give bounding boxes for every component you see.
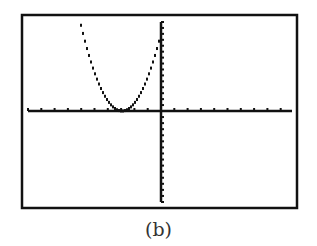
curve-pixel bbox=[110, 103, 112, 106]
curve-pixel bbox=[136, 98, 138, 101]
curve-pixel bbox=[130, 105, 132, 108]
curve-pixel bbox=[112, 105, 114, 108]
curve-pixel bbox=[90, 60, 92, 63]
curve-pixel bbox=[128, 107, 130, 110]
curve-pixel bbox=[86, 47, 88, 50]
curve-pixel bbox=[138, 95, 140, 98]
curve-pixel bbox=[80, 24, 82, 27]
curve-pixel bbox=[148, 72, 150, 75]
curve-pixel bbox=[156, 47, 158, 50]
curve-pixel bbox=[92, 67, 94, 70]
figure-caption: (b) bbox=[0, 218, 317, 240]
curve-pixel bbox=[106, 98, 108, 101]
curve-pixel bbox=[160, 32, 162, 35]
curve-pixel bbox=[96, 78, 98, 81]
curve-pixel bbox=[104, 95, 106, 98]
curve-pixel bbox=[82, 32, 84, 35]
curve-pixel bbox=[152, 60, 154, 63]
curve-pixel bbox=[94, 72, 96, 75]
curve-pixel bbox=[124, 109, 126, 112]
curve-pixel bbox=[88, 54, 90, 57]
curve-pixel bbox=[114, 107, 116, 110]
curve-pixel bbox=[102, 91, 104, 94]
curve-pixel bbox=[100, 87, 102, 90]
curve-pixel bbox=[132, 103, 134, 106]
curve-pixel bbox=[142, 87, 144, 90]
curve-pixel bbox=[118, 109, 120, 112]
curve-pixel bbox=[158, 40, 160, 43]
curve-pixel bbox=[108, 101, 110, 104]
curve-pixel bbox=[122, 109, 124, 112]
parabola-curve bbox=[80, 24, 162, 113]
curve-pixel bbox=[98, 83, 100, 86]
curve-pixel bbox=[116, 108, 118, 111]
curve-pixel bbox=[140, 91, 142, 94]
curve-pixel bbox=[146, 78, 148, 81]
curve-pixel bbox=[120, 109, 122, 112]
curve-pixel bbox=[126, 108, 128, 111]
curve-pixel bbox=[144, 83, 146, 86]
curve-pixel bbox=[84, 40, 86, 43]
curve-pixel bbox=[154, 54, 156, 57]
curve-pixel bbox=[150, 67, 152, 70]
curve-pixel bbox=[134, 101, 136, 104]
calculator-graph-screen bbox=[0, 0, 317, 246]
axes bbox=[28, 22, 292, 202]
